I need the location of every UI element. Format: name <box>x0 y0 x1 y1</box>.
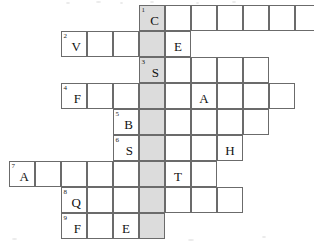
crossword-cell[interactable] <box>191 57 217 83</box>
crossword-letter: H <box>218 144 242 158</box>
clue-number: 2 <box>64 32 68 40</box>
crossword-cell[interactable] <box>191 5 217 31</box>
crossword-cell[interactable] <box>139 135 165 161</box>
crossword-cell[interactable] <box>139 83 165 109</box>
crossword-letter: S <box>140 66 164 80</box>
scan-artifact <box>262 236 266 238</box>
scan-artifact <box>188 239 194 241</box>
crossword-letter: B <box>114 118 138 132</box>
crossword-cell[interactable] <box>243 83 269 109</box>
crossword-cell[interactable] <box>165 187 191 213</box>
crossword-cell[interactable] <box>87 213 113 239</box>
crossword-cell[interactable] <box>217 83 243 109</box>
crossword-cell[interactable]: 1C <box>139 5 165 31</box>
crossword-letter: E <box>166 40 190 54</box>
crossword-cell[interactable] <box>217 57 243 83</box>
crossword-cell[interactable] <box>269 5 295 31</box>
crossword-letter: E <box>114 222 138 236</box>
crossword-cell[interactable] <box>191 187 217 213</box>
crossword-cell[interactable]: 4F <box>61 83 87 109</box>
clue-number: 9 <box>64 214 68 222</box>
crossword-cell[interactable] <box>217 5 243 31</box>
crossword-cell[interactable]: E <box>165 31 191 57</box>
crossword-cell[interactable]: A <box>191 83 217 109</box>
crossword-cell[interactable] <box>165 5 191 31</box>
crossword-cell[interactable] <box>139 31 165 57</box>
crossword-cell[interactable] <box>295 5 314 31</box>
crossword-letter: F <box>62 92 86 106</box>
scan-artifact <box>12 238 17 240</box>
clue-number: 7 <box>12 162 16 170</box>
crossword-cell[interactable] <box>113 161 139 187</box>
crossword-letter: T <box>166 170 190 184</box>
crossword-cell[interactable] <box>165 109 191 135</box>
crossword-cell[interactable]: 5B <box>113 109 139 135</box>
crossword-cell[interactable] <box>35 161 61 187</box>
crossword-cell[interactable] <box>165 57 191 83</box>
clue-number: 4 <box>64 84 68 92</box>
crossword-cell[interactable] <box>113 187 139 213</box>
crossword-letter: C <box>140 14 164 28</box>
crossword-cell[interactable]: 9F <box>61 213 87 239</box>
scan-artifact <box>150 1 154 3</box>
scan-artifact <box>96 1 101 3</box>
crossword-cell[interactable] <box>217 109 243 135</box>
crossword-letter: A <box>192 92 216 106</box>
clue-number: 6 <box>116 136 120 144</box>
scan-artifact <box>196 2 199 4</box>
crossword-cell[interactable]: 3S <box>139 57 165 83</box>
crossword-cell[interactable]: 7A <box>9 161 35 187</box>
crossword-cell[interactable] <box>87 83 113 109</box>
crossword-cell[interactable] <box>139 109 165 135</box>
crossword-cell[interactable] <box>139 213 165 239</box>
crossword-cell[interactable] <box>243 5 269 31</box>
clue-number: 8 <box>64 188 68 196</box>
crossword-cell[interactable]: 8Q <box>61 187 87 213</box>
crossword-cell[interactable] <box>165 83 191 109</box>
crossword-cell[interactable] <box>113 31 139 57</box>
crossword-letter: V <box>62 40 86 54</box>
scan-artifact <box>232 1 236 3</box>
crossword-grid: 1C2VE3S4FA5B6SH7AT8Q9FE <box>0 0 314 245</box>
clue-number: 5 <box>116 110 120 118</box>
crossword-letter: A <box>10 170 34 184</box>
clue-number: 3 <box>142 58 146 66</box>
crossword-cell[interactable]: T <box>165 161 191 187</box>
crossword-cell[interactable] <box>87 187 113 213</box>
crossword-cell[interactable] <box>139 187 165 213</box>
crossword-cell[interactable] <box>87 31 113 57</box>
scan-artifact <box>66 2 70 4</box>
crossword-cell[interactable]: 2V <box>61 31 87 57</box>
crossword-cell[interactable] <box>87 161 113 187</box>
crossword-letter: F <box>62 222 86 236</box>
crossword-cell[interactable] <box>191 109 217 135</box>
crossword-cell[interactable] <box>139 161 165 187</box>
crossword-cell[interactable] <box>165 135 191 161</box>
clue-number: 1 <box>142 6 146 14</box>
crossword-cell[interactable] <box>113 83 139 109</box>
crossword-letter: Q <box>62 196 86 210</box>
crossword-cell[interactable] <box>269 83 295 109</box>
crossword-cell[interactable] <box>61 161 87 187</box>
scan-artifact <box>120 2 123 4</box>
crossword-cell[interactable] <box>191 135 217 161</box>
crossword-cell[interactable]: E <box>113 213 139 239</box>
crossword-cell[interactable]: H <box>217 135 243 161</box>
crossword-cell[interactable]: 6S <box>113 135 139 161</box>
crossword-letter: S <box>114 144 138 158</box>
crossword-cell[interactable] <box>243 109 269 135</box>
crossword-cell[interactable] <box>217 187 243 213</box>
crossword-cell[interactable] <box>243 57 269 83</box>
crossword-cell[interactable] <box>191 161 217 187</box>
